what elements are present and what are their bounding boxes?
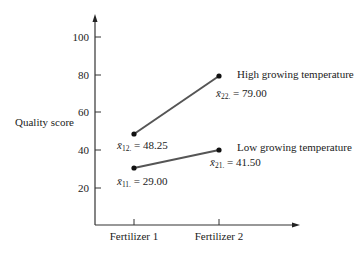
data-point — [131, 165, 136, 170]
annotation-x21: x̄21. = 41.50 — [209, 156, 261, 170]
ytick-60: 60 — [78, 106, 90, 118]
annotation-x22: x̄22. = 79.00 — [215, 87, 267, 101]
ytick-40: 40 — [78, 144, 90, 156]
xcat-fertilizer-1: Fertilizer 1 — [110, 230, 159, 242]
y-ticks: 100 80 60 40 20 — [73, 31, 102, 194]
ytick-20: 20 — [78, 182, 90, 194]
data-point — [216, 73, 221, 78]
series-label-low: Low growing temperature — [237, 141, 352, 153]
y-axis-label: Quality score — [15, 116, 74, 128]
series-label-high: High growing temperature — [237, 68, 354, 80]
interaction-plot: 100 80 60 40 20 Fertilizer 1 Fertilizer … — [0, 0, 362, 255]
x-axis-arrow-icon — [292, 223, 300, 228]
data-point — [216, 147, 221, 152]
ytick-80: 80 — [78, 69, 90, 81]
annotation-x11: x̄11. = 29.00 — [116, 175, 168, 189]
ytick-100: 100 — [73, 31, 90, 43]
xcat-fertilizer-2: Fertilizer 2 — [195, 230, 244, 242]
y-axis-arrow-icon — [93, 14, 98, 22]
x-ticks: Fertilizer 1 Fertilizer 2 — [110, 219, 244, 242]
annotation-x12: x̄12. = 48.25 — [116, 139, 168, 153]
data-point — [131, 131, 136, 136]
series-high-temperature — [131, 73, 221, 136]
